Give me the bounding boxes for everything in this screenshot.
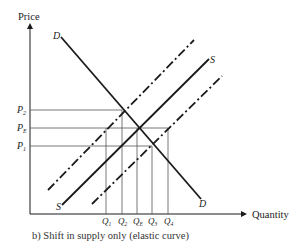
supply-label-top: S [210,54,215,65]
x-axis-label: Quantity [252,209,289,220]
demand-label-top: D [52,30,61,41]
quantity-label-q4: Q4 [164,216,174,227]
price-label-p1: P1 [16,140,26,152]
supply-curve-decrease [48,40,194,190]
figure-caption: b) Shift in supply only (elastic curve) [32,230,189,241]
supply-demand-diagram: Price Quantity D D S S P2 PE P1 Q1 Q2 QE… [0,0,299,251]
quantity-label-q2: Q2 [118,216,128,227]
price-label-p2: P2 [16,104,26,116]
quantity-label-q3: Q3 [148,216,158,227]
price-label-pe: PE [16,122,27,134]
y-axis-label: Price [18,11,40,22]
supply-label-bottom: S [56,201,61,212]
quantity-label-q1: Q1 [102,216,112,227]
quantity-label-qe: QE [133,216,144,227]
demand-label-bottom: D [198,198,207,209]
